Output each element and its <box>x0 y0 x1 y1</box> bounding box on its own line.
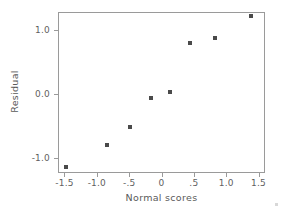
scatter-point <box>105 143 109 147</box>
scatter-point <box>128 125 132 129</box>
scatter-point <box>149 96 153 100</box>
y-tick-mark <box>54 158 58 159</box>
x-tick-label: 1.5 <box>242 178 276 189</box>
x-axis-title: Normal scores <box>58 192 265 203</box>
scatter-point <box>64 165 68 169</box>
x-tick-mark <box>194 173 195 177</box>
scatter-point <box>213 36 217 40</box>
x-tick-label: 1.0 <box>209 178 243 189</box>
scatter-point <box>168 90 172 94</box>
y-tick-mark <box>54 94 58 95</box>
y-tick-label: 1.0 <box>16 25 50 36</box>
plot-area-frame <box>58 12 265 173</box>
y-tick-label: 0.0 <box>16 89 50 100</box>
x-tick-label: -1.5 <box>47 178 81 189</box>
x-tick-label: -1.0 <box>80 178 114 189</box>
x-tick-mark <box>226 173 227 177</box>
scatter-point <box>249 14 253 18</box>
x-tick-label: .5 <box>177 178 211 189</box>
x-tick-mark <box>259 173 260 177</box>
x-tick-mark <box>97 173 98 177</box>
x-tick-label: 0 <box>145 178 179 189</box>
x-tick-mark <box>162 173 163 177</box>
y-tick-label: -1.0 <box>16 152 50 163</box>
scatter-point <box>188 41 192 45</box>
x-tick-mark <box>64 173 65 177</box>
normal-probability-plot-figure: -1.5-1.0-.50.51.01.5 1.00.0-1.0 Normal s… <box>0 0 282 211</box>
x-tick-mark <box>129 173 130 177</box>
scan-artifact-speck <box>275 203 278 206</box>
x-tick-label: -.5 <box>112 178 146 189</box>
y-tick-mark <box>54 30 58 31</box>
y-axis-title: Residual <box>9 52 20 132</box>
